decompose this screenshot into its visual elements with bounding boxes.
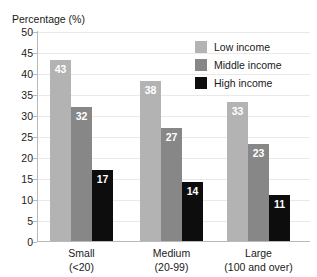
bar-chart: Percentage (%) 50454035302520151050 4332… bbox=[0, 0, 316, 277]
bar-value-label: 11 bbox=[269, 199, 290, 210]
y-axis-tick-label: 10 bbox=[3, 195, 33, 206]
bar: 23 bbox=[248, 144, 269, 241]
y-axis-tick-label: 30 bbox=[3, 111, 33, 122]
bar-value-label: 32 bbox=[71, 111, 92, 122]
y-axis-tick-mark bbox=[33, 242, 37, 243]
y-axis-tick-label: 5 bbox=[3, 216, 33, 227]
bar-value-label: 14 bbox=[182, 186, 203, 197]
bar-value-label: 17 bbox=[92, 174, 113, 185]
chart-legend: Low incomeMiddle incomeHigh income bbox=[195, 38, 282, 92]
x-axis-category-labels: Small(<20)Medium(20-99)Large(100 and ove… bbox=[37, 246, 310, 277]
legend-swatch-icon bbox=[195, 77, 207, 89]
y-axis-tick-label: 35 bbox=[3, 90, 33, 101]
bar-value-label: 33 bbox=[227, 106, 248, 117]
x-axis-category-name: Medium bbox=[153, 247, 190, 259]
bar: 11 bbox=[269, 195, 290, 241]
x-axis-category-name: Small bbox=[68, 247, 94, 259]
y-axis-tick-label: 40 bbox=[3, 69, 33, 80]
bar-value-label: 23 bbox=[248, 148, 269, 159]
x-axis-line bbox=[37, 241, 310, 242]
y-axis-tick-label: 15 bbox=[3, 174, 33, 185]
legend-label: Low income bbox=[214, 41, 270, 53]
bar: 17 bbox=[92, 170, 113, 241]
legend-label: Middle income bbox=[214, 59, 282, 71]
bar-value-label: 38 bbox=[140, 85, 161, 96]
y-axis-title: Percentage (%) bbox=[12, 13, 85, 25]
bar-value-label: 27 bbox=[161, 132, 182, 143]
bar-value-label: 43 bbox=[50, 64, 71, 75]
y-axis-tick-label: 45 bbox=[3, 48, 33, 59]
legend-item[interactable]: Low income bbox=[195, 38, 282, 56]
x-axis-category-label: Large(100 and over) bbox=[199, 246, 317, 274]
y-axis-tick-label: 50 bbox=[3, 27, 33, 38]
bar: 33 bbox=[227, 102, 248, 241]
y-axis-tick-label: 25 bbox=[3, 132, 33, 143]
legend-item[interactable]: High income bbox=[195, 74, 282, 92]
x-axis-category-range: (100 and over) bbox=[199, 260, 317, 274]
legend-label: High income bbox=[214, 77, 272, 89]
legend-swatch-icon bbox=[195, 59, 207, 71]
legend-swatch-icon bbox=[195, 41, 207, 53]
legend-item[interactable]: Middle income bbox=[195, 56, 282, 74]
bar: 43 bbox=[50, 60, 71, 241]
x-axis-category-name: Large bbox=[245, 247, 272, 259]
bar: 14 bbox=[182, 182, 203, 241]
bar: 32 bbox=[71, 107, 92, 241]
cropped-title-strip bbox=[0, 0, 316, 10]
y-axis-tick-label: 20 bbox=[3, 153, 33, 164]
bar: 27 bbox=[161, 128, 182, 241]
y-axis-tick-labels: 50454035302520151050 bbox=[0, 31, 33, 242]
bar: 38 bbox=[140, 81, 161, 241]
